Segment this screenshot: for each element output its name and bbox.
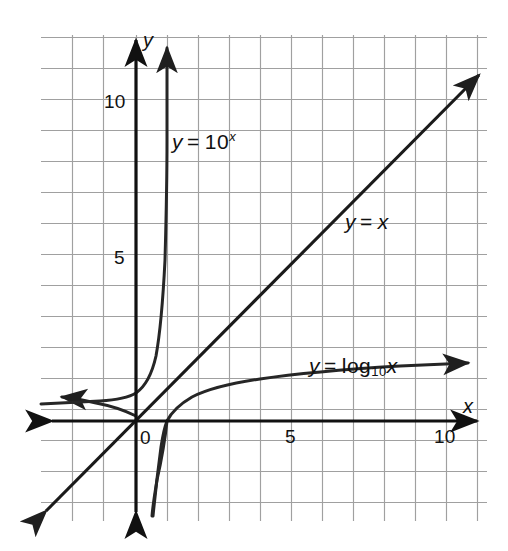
log-equals: = — [320, 354, 342, 377]
log-fn: log — [342, 354, 372, 377]
x-tick-5: 5 — [285, 427, 296, 446]
figure-canvas: y x 10 5 0 5 10 y=10x y=x y=log10x — [0, 0, 508, 551]
x-axis-label: x — [463, 396, 473, 416]
log-arg: x — [387, 354, 398, 377]
curve-label-logarithm: y=log10x — [309, 355, 398, 376]
id-lhs: y — [345, 210, 356, 233]
x-tick-10: 10 — [434, 427, 456, 446]
exp-equals: = — [183, 130, 205, 153]
log-base: 10 — [371, 364, 386, 379]
curve-label-identity: y=x — [345, 211, 389, 232]
id-rhs: x — [378, 210, 389, 233]
y-tick-5: 5 — [114, 248, 125, 267]
y-tick-10: 10 — [104, 92, 126, 111]
exp-lhs: y — [172, 130, 183, 153]
id-equals: = — [356, 210, 378, 233]
curve-exponential-lower-branch — [152, 421, 167, 516]
log-lhs: y — [309, 354, 320, 377]
graph-svg — [0, 0, 508, 551]
origin-label: 0 — [140, 428, 151, 447]
y-axis-label: y — [143, 30, 153, 50]
exp-exponent: x — [229, 129, 236, 144]
exp-base: 10 — [205, 130, 229, 153]
curve-identity — [46, 75, 479, 511]
curve-logarithm — [153, 363, 468, 516]
curve-label-exponential: y=10x — [172, 131, 236, 152]
